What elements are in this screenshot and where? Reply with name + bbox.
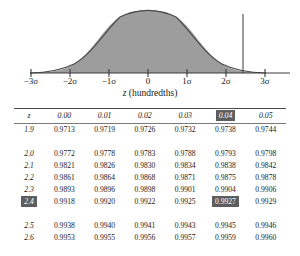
z-cell-22-004: 0.9875 [205,172,245,184]
z-row-label-24[interactable]: 2.4 [14,196,44,208]
z-cell-26-004: 0.9959 [205,232,245,244]
z-table-body: 1.9 0.9713 0.9719 0.9726 0.9732 0.9738 0… [14,124,286,245]
z-cell-25-002: 0.9941 [125,220,165,232]
z-cell-19-000: 0.9713 [44,124,84,137]
x-axis-caption: z (hundredths) [0,88,300,98]
z-table-col-header-001[interactable]: 0.01 [85,109,125,124]
z-table-col-header-005-text: 0.05 [256,110,276,121]
z-table-col-header-004-text: 0.04 [216,110,236,121]
z-cell-21-003: 0.9834 [165,160,205,172]
z-table-col-header-000-text: 0.00 [55,110,75,121]
z-row-label-23: 2.3 [14,184,44,196]
z-cell-23-003: 0.9901 [165,184,205,196]
z-table-col-header-002-text: 0.02 [135,110,155,121]
x-tick-label-neg1sigma: −1σ [92,76,126,86]
table-row[interactable]: 2.4 0.9918 0.9920 0.9922 0.9925 0.9927 0… [14,196,286,208]
z-cell-21-005: 0.9842 [246,160,286,172]
z-row-label-22: 2.2 [14,172,44,184]
z-cell-22-002: 0.9868 [125,172,165,184]
normal-curve-figure: −3σ −2σ −1σ 0 1σ 2σ 3σ z (hundredths) [0,0,300,104]
z-table-head: z 0.00 0.01 0.02 0.03 0.04 0.05 [14,109,286,124]
z-cell-24-005: 0.9929 [246,196,286,208]
z-cell-20-002: 0.9783 [125,148,165,160]
z-cell-26-002: 0.9956 [125,232,165,244]
z-cell-25-004: 0.9945 [205,220,245,232]
z-cell-25-000: 0.9938 [44,220,84,232]
z-cell-26-005: 0.9960 [246,232,286,244]
z-cell-19-005: 0.9744 [246,124,286,137]
table-row[interactable]: 1.9 0.9713 0.9719 0.9726 0.9732 0.9738 0… [14,124,286,137]
z-cell-19-004: 0.9738 [205,124,245,137]
z-cell-22-001: 0.9864 [85,172,125,184]
z-cell-19-002: 0.9726 [125,124,165,137]
z-cell-22-003: 0.9871 [165,172,205,184]
z-table-col-header-005[interactable]: 0.05 [246,109,286,124]
z-table-col-header-004[interactable]: 0.04 [205,109,245,124]
table-row[interactable]: 2.2 0.9861 0.9864 0.9868 0.9871 0.9875 0… [14,172,286,184]
z-cell-24-001: 0.9920 [85,196,125,208]
z-cell-22-000: 0.9861 [44,172,84,184]
z-table-col-header-002[interactable]: 0.02 [125,109,165,124]
z-table-header-row: z 0.00 0.01 0.02 0.03 0.04 0.05 [14,109,286,124]
x-tick-label-neg2sigma: −2σ [53,76,87,86]
z-cell-21-000: 0.9821 [44,160,84,172]
table-row[interactable]: 2.5 0.9938 0.9940 0.9941 0.9943 0.9945 0… [14,220,286,232]
z-row-label-24-text: 2.4 [21,196,37,207]
table-row[interactable]: 2.0 0.9772 0.9778 0.9783 0.9788 0.9793 0… [14,148,286,160]
z-cell-23-005: 0.9906 [246,184,286,196]
z-cell-25-003: 0.9943 [165,220,205,232]
z-cell-23-000: 0.9893 [44,184,84,196]
x-tick-label-3sigma: 3σ [248,76,282,86]
z-cell-21-001: 0.9826 [85,160,125,172]
z-cell-24-004[interactable]: 0.9927 [205,196,245,208]
z-cell-22-005: 0.9878 [246,172,286,184]
z-table-spacer [14,136,286,148]
z-cell-19-001: 0.9719 [85,124,125,137]
z-cell-24-002: 0.9922 [125,196,165,208]
x-axis-units: (hundredths) [126,88,177,98]
x-tick-label-2sigma: 2σ [209,76,243,86]
z-score-table: z 0.00 0.01 0.02 0.03 0.04 0.05 1.9 0.97… [14,108,286,244]
z-cell-26-000: 0.9953 [44,232,84,244]
x-tick-label-neg3sigma: −3σ [14,76,48,86]
table-row[interactable]: 2.6 0.9953 0.9955 0.9956 0.9957 0.9959 0… [14,232,286,244]
z-cell-24-004-text: 0.9927 [212,196,239,207]
z-row-label-21: 2.1 [14,160,44,172]
z-table-col-header-001-text: 0.01 [95,110,115,121]
z-cell-26-001: 0.9955 [85,232,125,244]
z-cell-20-003: 0.9788 [165,148,205,160]
z-cell-21-004: 0.9838 [205,160,245,172]
z-cell-20-001: 0.9778 [85,148,125,160]
z-table-col-header-000[interactable]: 0.00 [44,109,84,124]
z-table-spacer [14,208,286,220]
z-cell-20-004: 0.9793 [205,148,245,160]
z-cell-21-002: 0.9830 [125,160,165,172]
z-table-col-header-003[interactable]: 0.03 [165,109,205,124]
normal-curve-area [30,10,266,73]
z-cell-20-005: 0.9798 [246,148,286,160]
z-cell-19-003: 0.9732 [165,124,205,137]
z-cell-23-002: 0.9898 [125,184,165,196]
z-cell-24-003: 0.9925 [165,196,205,208]
z-table-corner-header: z [14,109,44,124]
z-cell-23-001: 0.9896 [85,184,125,196]
z-row-label-20: 2.0 [14,148,44,160]
z-row-label-25: 2.5 [14,220,44,232]
z-cell-24-000: 0.9918 [44,196,84,208]
x-tick-label-1sigma: 1σ [170,76,204,86]
table-row[interactable]: 2.3 0.9893 0.9896 0.9898 0.9901 0.9904 0… [14,184,286,196]
z-cell-26-003: 0.9957 [165,232,205,244]
z-cell-20-000: 0.9772 [44,148,84,160]
z-cell-25-005: 0.9946 [246,220,286,232]
z-cell-23-004: 0.9904 [205,184,245,196]
table-row[interactable]: 2.1 0.9821 0.9826 0.9830 0.9834 0.9838 0… [14,160,286,172]
z-table-col-header-003-text: 0.03 [175,110,195,121]
x-tick-label-zero: 0 [131,76,165,86]
z-cell-25-001: 0.9940 [85,220,125,232]
z-row-label-26: 2.6 [14,232,44,244]
z-row-label-19: 1.9 [14,124,44,137]
